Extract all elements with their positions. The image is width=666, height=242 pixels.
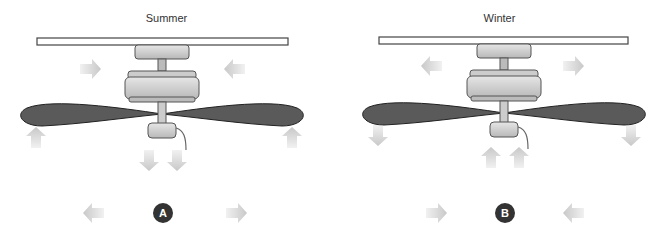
fan-blade-right [504,103,645,125]
airflow-arrow-down-icon [167,150,187,171]
motor-housing [467,76,541,98]
airflow-arrow-up-icon [481,147,501,168]
airflow-arrow-up-icon [26,127,46,148]
badge-letter: B [501,207,509,219]
airflow-arrow-right-icon [563,56,584,76]
fan-blade-left [21,104,162,126]
light-kit [148,123,176,138]
airflow-arrow-right-icon [426,203,447,223]
airflow-arrow-left-icon [421,56,442,76]
fan-blade-left [363,103,504,125]
ceiling [379,37,628,44]
airflow-arrow-right-icon [80,59,101,79]
motor-bottom [129,97,195,102]
airflow-arrow-up-icon [282,127,302,148]
airflow-arrow-up-icon [509,147,529,168]
canopy [477,44,531,58]
airflow-arrow-down-icon [368,125,388,146]
motor-housing [125,77,199,99]
pull-chain [176,128,186,150]
downrod [500,58,508,70]
airflow-arrow-left-icon [83,203,104,223]
ceiling [37,38,288,45]
pull-chain [518,127,528,149]
airflow-arrow-right-icon [226,203,247,223]
downrod [158,59,166,71]
winter-panel: Winter B [333,0,666,242]
fan-blade-right [162,104,303,126]
airflow-arrow-left-icon [224,59,245,79]
hub [158,102,166,124]
summer-panel: Summer A [0,0,333,242]
motor-bottom [471,96,537,101]
airflow-arrow-down-icon [139,150,159,171]
canopy [135,45,189,59]
hub [500,101,508,123]
fan-diagram-winter: B [333,0,666,242]
airflow-arrow-down-icon [621,125,641,146]
fan-diagram-summer: A [0,0,333,242]
badge-letter: A [159,207,167,219]
airflow-arrow-left-icon [563,203,584,223]
light-kit [490,122,518,137]
